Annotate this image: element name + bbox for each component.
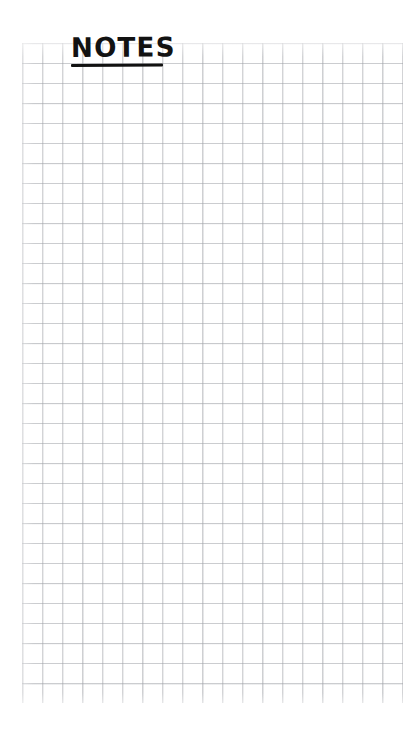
notes-page: NOTES <box>0 0 403 730</box>
graph-paper-grid[interactable] <box>22 43 403 703</box>
page-title: NOTES <box>71 32 178 63</box>
title-block: NOTES <box>71 33 181 67</box>
title-underline <box>71 64 163 67</box>
grid-lines-accent <box>22 43 403 703</box>
